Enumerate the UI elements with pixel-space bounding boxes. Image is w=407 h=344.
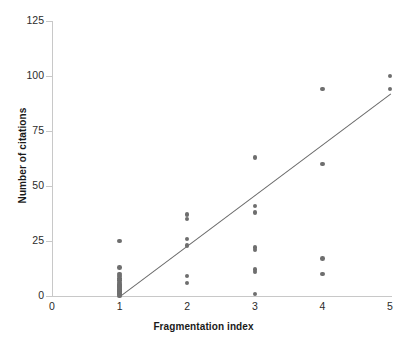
data-point <box>388 74 393 79</box>
data-point <box>253 210 258 215</box>
data-point <box>388 87 393 92</box>
data-point <box>320 272 325 277</box>
data-point <box>117 272 122 277</box>
data-point <box>117 239 122 244</box>
y-tick-mark <box>46 296 52 297</box>
y-tick-label: 25 <box>6 234 44 246</box>
x-axis-line <box>52 296 392 297</box>
x-tick-label: 4 <box>310 300 334 312</box>
data-point <box>320 256 325 261</box>
plot-area <box>52 21 390 296</box>
data-point <box>253 155 258 160</box>
scatter-chart: 0255075100125 012345 Fragmentation index… <box>0 0 407 344</box>
data-point <box>253 292 258 297</box>
y-tick-label: 125 <box>6 14 44 26</box>
data-point <box>253 204 258 209</box>
data-point <box>253 245 258 250</box>
y-axis-title: Number of citations <box>17 76 28 236</box>
x-tick-label: 0 <box>40 300 64 312</box>
data-point <box>253 267 258 272</box>
x-tick-label: 1 <box>108 300 132 312</box>
x-tick-label: 2 <box>175 300 199 312</box>
y-tick-label: 0 <box>6 289 44 301</box>
data-point <box>117 265 122 270</box>
x-axis-title: Fragmentation index <box>0 321 407 332</box>
x-tick-label: 5 <box>378 300 402 312</box>
x-tick-label: 3 <box>243 300 267 312</box>
data-point <box>320 162 325 167</box>
